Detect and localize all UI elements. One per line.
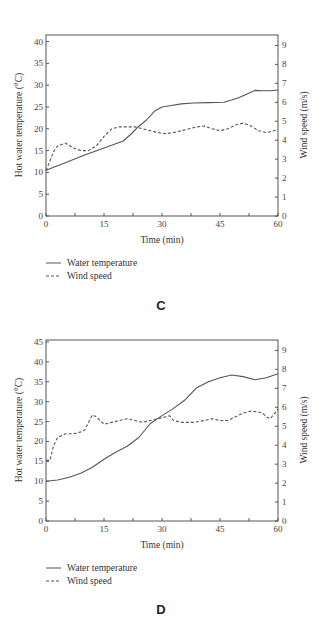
y2-tick-label: 4 <box>282 135 287 145</box>
y2-tick-label: 2 <box>282 173 287 183</box>
y2-tick-label: 8 <box>282 59 287 69</box>
y-tick-label: 45 <box>34 337 44 347</box>
y2-tick-label: 7 <box>282 78 287 88</box>
wind-speed-line <box>46 123 278 170</box>
y-tick-label: 15 <box>34 456 44 466</box>
y2-tick-label: 1 <box>282 192 287 202</box>
legend-label-wind-speed: Wind speed <box>67 271 112 281</box>
y2-tick-label: 5 <box>282 421 287 431</box>
chart-c-panel-label: C <box>156 298 166 313</box>
chart-d-panel-label: D <box>156 602 165 617</box>
x-tick-label: 0 <box>44 219 49 229</box>
y-tick-label: 5 <box>39 189 44 199</box>
x-tick-label: 30 <box>158 524 168 534</box>
legend-label-water-temperature: Water temperature <box>67 563 137 573</box>
legend-label-water-temperature: Water temperature <box>67 258 137 268</box>
y2-tick-label: 9 <box>282 345 287 355</box>
y2-tick-label: 3 <box>282 459 287 469</box>
y-tick-label: 20 <box>34 436 44 446</box>
chart-d: 0153045600510152025303540450123456789 Ti… <box>14 337 310 617</box>
chart-d-y-axis-title: Hot water temperature (°C) <box>14 378 25 482</box>
chart-c-x-axis-title: Time (min) <box>140 235 183 246</box>
chart-c: 01530456005101520253035400123456789 Time… <box>14 35 310 313</box>
y-tick-label: 10 <box>34 167 44 177</box>
y2-tick-label: 2 <box>282 478 287 488</box>
wind-speed-line <box>46 409 278 460</box>
y-tick-label: 10 <box>34 476 44 486</box>
y2-tick-label: 6 <box>282 97 287 107</box>
chart-d-legend: Water temperature Wind speed <box>46 563 137 586</box>
y-tick-label: 0 <box>39 516 44 526</box>
x-tick-label: 45 <box>216 524 226 534</box>
y-tick-label: 5 <box>39 496 44 506</box>
y2-tick-label: 3 <box>282 154 287 164</box>
chart-c-y2-axis-title: Wind speed (m/s) <box>299 91 310 158</box>
y2-tick-label: 0 <box>282 516 287 526</box>
y-tick-label: 0 <box>39 211 44 221</box>
chart-c-plot-area: 01530456005101520253035400123456789 <box>34 35 287 229</box>
y-tick-label: 20 <box>34 124 44 134</box>
plot-frame <box>46 340 278 521</box>
x-tick-label: 15 <box>100 524 110 534</box>
y-tick-label: 40 <box>34 37 44 47</box>
legend-label-wind-speed: Wind speed <box>67 576 112 586</box>
y2-tick-label: 8 <box>282 364 287 374</box>
plot-frame <box>46 35 278 216</box>
y2-tick-label: 5 <box>282 116 287 126</box>
y2-tick-label: 7 <box>282 383 287 393</box>
y2-tick-label: 4 <box>282 440 287 450</box>
chart-d-plot-area: 0153045600510152025303540450123456789 <box>34 337 287 534</box>
chart-c-legend: Water temperature Wind speed <box>46 258 137 281</box>
y-tick-label: 40 <box>34 357 44 367</box>
figure: 01530456005101520253035400123456789 Time… <box>0 0 322 642</box>
y-tick-label: 30 <box>34 397 44 407</box>
y-tick-label: 25 <box>34 417 44 427</box>
y2-tick-label: 1 <box>282 497 287 507</box>
chart-d-x-axis-title: Time (min) <box>140 540 183 551</box>
x-tick-label: 0 <box>44 524 49 534</box>
y2-tick-label: 6 <box>282 402 287 412</box>
y-tick-label: 30 <box>34 80 44 90</box>
x-tick-label: 15 <box>100 219 110 229</box>
water-temperature-line <box>46 374 278 481</box>
water-temperature-line <box>46 90 278 170</box>
y-tick-label: 35 <box>34 58 44 68</box>
y-tick-label: 15 <box>34 146 44 156</box>
chart-d-y2-axis-title: Wind speed (m/s) <box>299 396 310 463</box>
y-tick-label: 35 <box>34 377 44 387</box>
y-tick-label: 25 <box>34 102 44 112</box>
x-tick-label: 30 <box>158 219 168 229</box>
y2-tick-label: 0 <box>282 211 287 221</box>
x-tick-label: 45 <box>216 219 226 229</box>
chart-c-y-axis-title: Hot water temperature (°C) <box>14 73 25 177</box>
y2-tick-label: 9 <box>282 40 287 50</box>
